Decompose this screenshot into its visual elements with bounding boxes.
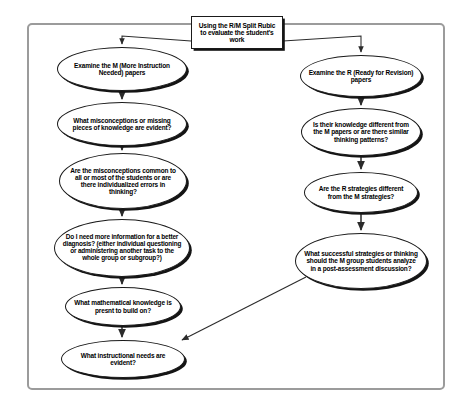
node-label: Do I need more information for a better … [55, 234, 189, 262]
node-more-information[interactable]: Do I need more information for a better … [54, 219, 190, 277]
node-successful-strategies[interactable]: What successful strategies or thinking s… [295, 233, 427, 289]
node-label: What mathematical knowledge is presnt to… [66, 299, 180, 313]
node-label: Is their knowledge different from the M … [302, 121, 420, 142]
node-strategies-different[interactable]: Are the R strategies different from the … [304, 172, 418, 213]
connector-title-to-examine-m [122, 36, 191, 44]
node-label: Are the misconceptions common to all or … [60, 167, 186, 195]
node-label: Examine the M (More Instruction Needed) … [58, 62, 186, 76]
node-common-or-individual[interactable]: Are the misconceptions common to all or … [59, 153, 187, 209]
node-examine-m[interactable]: Examine the M (More Instruction Needed) … [57, 47, 187, 91]
node-label: Examine the R (Ready for Revision) paper… [301, 69, 421, 83]
node-label: What misconceptions or missing pieces of… [58, 117, 186, 131]
connector-title-to-examine-r [283, 36, 361, 52]
connector-successful-to-instructional-needs [182, 277, 306, 340]
node-label: Using the R/M Split Rubic to evaluate th… [195, 22, 279, 43]
node-knowledge-different[interactable]: Is their knowledge different from the M … [301, 108, 421, 156]
node-label: What successful strategies or thinking s… [296, 250, 426, 271]
node-misconceptions-evident[interactable]: What misconceptions or missing pieces of… [57, 102, 187, 146]
node-math-knowledge-present[interactable]: What mathematical knowledge is presnt to… [65, 287, 181, 326]
node-instructional-needs[interactable]: What instructional needs are evident? [61, 340, 185, 378]
node-label: What instructional needs are evident? [62, 352, 184, 366]
node-title-box[interactable]: Using the R/M Split Rubic to evaluate th… [191, 16, 283, 49]
diagram-canvas: Using the R/M Split Rubic to evaluate th… [0, 0, 472, 403]
node-label: Are the R strategies different from the … [305, 185, 417, 199]
node-examine-r[interactable]: Examine the R (Ready for Revision) paper… [300, 55, 422, 97]
